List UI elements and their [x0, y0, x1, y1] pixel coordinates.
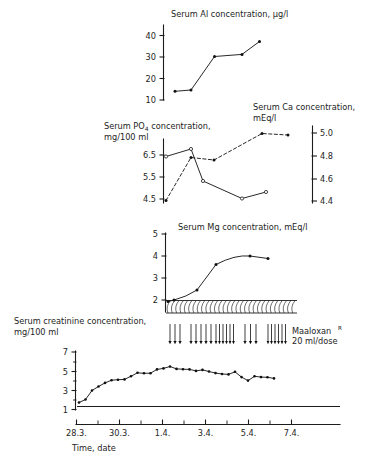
x-axis-label: Time, date — [71, 443, 116, 453]
al-tick-30: 30 — [146, 52, 156, 62]
panel-subtitle-ca: mEq/l — [253, 113, 276, 123]
ca-y-tick-labels: 5.0 4.8 4.6 4.4 — [320, 128, 333, 206]
maaloxan-label: Maaloxan — [292, 326, 331, 336]
po4-title-tail: concentration, — [149, 121, 211, 131]
ca-tick-46: 4.6 — [320, 174, 333, 184]
panel-subtitle-creatinine: mg/100 ml — [14, 327, 58, 337]
maaloxan-dose-label: 20 ml/dose — [292, 336, 338, 346]
al-y-tick-labels: 40 30 20 10 — [146, 31, 156, 106]
panel-serum-creatinine: Serum creatinine concentration, mg/100 m… — [14, 316, 342, 453]
x-tick-3-4: 3.4. — [198, 428, 214, 438]
mg-tick-2: 2 — [153, 295, 158, 305]
mg-normal-range-band — [166, 301, 297, 314]
serum-parameters-figure: Serum Al concentration, µg/l 40 30 20 10… — [0, 0, 367, 467]
panel-title-al: Serum Al concentration, µg/l — [171, 9, 288, 19]
x-tick-7-4: 7.4. — [284, 428, 300, 438]
maaloxan-registered-mark: R — [338, 325, 342, 331]
x-tick-30-3: 30.3. — [109, 428, 130, 438]
mg-tick-4: 4 — [153, 251, 158, 261]
figure-canvas: Serum Al concentration, µg/l 40 30 20 10… — [0, 0, 367, 467]
x-tick-28-3: 28.3. — [66, 428, 87, 438]
po4-tick-45: 4.5 — [143, 194, 156, 204]
panel-serum-po4-ca: Serum PO4 concentration, mg/100 ml Serum… — [104, 102, 355, 206]
po4-tick-65: 6.5 — [143, 150, 156, 160]
mg-series — [167, 255, 270, 304]
al-series — [174, 40, 262, 93]
panel-title-creatinine: Serum creatinine concentration, — [14, 316, 146, 326]
panel-title-ca: Serum Ca concentration, — [253, 102, 355, 112]
creatinine-y-tick-labels: 7 5 3 1 — [63, 347, 68, 415]
po4-tick-55: 5.5 — [143, 172, 156, 182]
mg-y-tick-labels: 5 4 3 2 — [153, 229, 158, 305]
mg-tick-5: 5 — [153, 229, 158, 239]
panel-title-mg: Serum Mg concentration, mEq/l — [178, 222, 308, 232]
al-tick-40: 40 — [146, 31, 156, 41]
creatinine-series — [78, 365, 276, 404]
panel-title-po4: Serum PO4 concentration, — [104, 121, 211, 132]
po4-title-head: Serum PO — [104, 121, 145, 131]
x-tick-1-4: 1.4. — [155, 428, 171, 438]
mg-tick-3: 3 — [153, 273, 158, 283]
po4-series — [164, 147, 267, 200]
creat-tick-1: 1 — [63, 405, 68, 415]
ca-tick-50: 5.0 — [320, 128, 333, 138]
al-tick-20: 20 — [146, 74, 156, 84]
ca-tick-48: 4.8 — [320, 151, 333, 161]
ca-tick-44: 4.4 — [320, 196, 333, 206]
maaloxan-dose-arrows — [168, 324, 287, 344]
creatinine-x-tick-labels: 28.3. 30.3. 1.4. 3.4. 5.4. 7.4. — [66, 428, 299, 438]
x-tick-5-4: 5.4. — [241, 428, 257, 438]
creat-tick-5: 5 — [63, 367, 68, 377]
po4-y-tick-labels: 6.5 5.5 4.5 — [143, 150, 156, 204]
panel-serum-al: Serum Al concentration, µg/l 40 30 20 10 — [146, 9, 289, 105]
creatinine-x-ticks — [77, 420, 292, 425]
creat-tick-3: 3 — [63, 386, 68, 396]
panel-serum-mg: Serum Mg concentration, mEq/l 5 4 3 2 — [153, 222, 308, 313]
creat-tick-7: 7 — [63, 347, 68, 357]
al-tick-10: 10 — [146, 95, 156, 105]
panel-subtitle-po4: mg/100 ml — [104, 132, 148, 142]
